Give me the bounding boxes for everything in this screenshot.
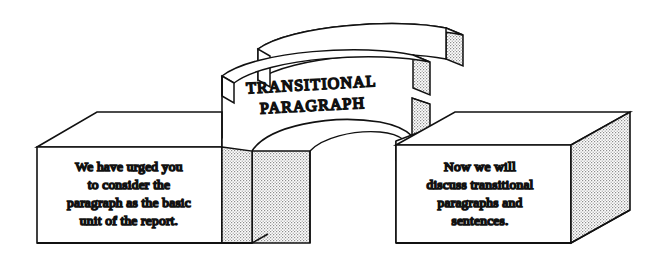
diagram-root: TRANSITIONAL PARAGRAPH We have urged you… [0, 0, 664, 276]
left-block-line-3: paragraph as the basic [67, 195, 191, 210]
center-title-line-2: PARAGRAPH [259, 94, 365, 117]
left-block-top-face [37, 112, 222, 147]
right-block-line-4: sentences. [451, 213, 508, 228]
right-block-line-2: discuss transitional [426, 177, 533, 192]
left-block-line-1: We have urged you [75, 159, 182, 174]
right-block-line-1: Now we will [444, 159, 516, 174]
left-block-side-face-group [222, 147, 252, 243]
center-title-group: TRANSITIONAL PARAGRAPH [246, 72, 378, 117]
right-block-line-3: paragraphs and [438, 195, 523, 210]
left-block-line-4: unit of the report. [80, 213, 178, 228]
left-block-line-2: to consider the [88, 177, 170, 192]
block-diagram-illustration: TRANSITIONAL PARAGRAPH We have urged you… [0, 0, 664, 276]
left-block-side-face [222, 147, 252, 243]
center-block-right-side-face [252, 151, 310, 243]
